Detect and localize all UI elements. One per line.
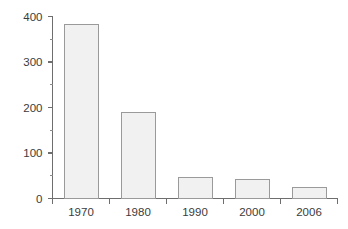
x-tick-label: 1990 — [182, 206, 208, 218]
y-axis — [48, 17, 53, 199]
y-tick-label: 0 — [36, 193, 42, 205]
x-tick-label: 1980 — [125, 206, 151, 218]
y-tick-label: 400 — [23, 11, 42, 23]
bar — [179, 178, 213, 199]
y-axis-tick-labels: 0100200300400 — [23, 11, 42, 205]
x-tick-label: 2006 — [296, 206, 322, 218]
x-tick-label: 1970 — [68, 206, 94, 218]
x-tick-label: 2000 — [239, 206, 265, 218]
x-axis-tick-labels: 19701980199020002006 — [68, 206, 322, 218]
chart-canvas: 0100200300400 19701980199020002006 — [0, 0, 348, 229]
bar — [293, 188, 327, 199]
y-tick-label: 200 — [23, 102, 42, 114]
bar — [122, 113, 156, 199]
y-tick-label: 300 — [23, 56, 42, 68]
bar-series — [65, 25, 327, 199]
y-tick-label: 100 — [23, 147, 42, 159]
bar — [65, 25, 99, 199]
x-axis — [49, 199, 338, 204]
bar-chart: 0100200300400 19701980199020002006 — [0, 0, 348, 229]
bar — [236, 179, 270, 198]
